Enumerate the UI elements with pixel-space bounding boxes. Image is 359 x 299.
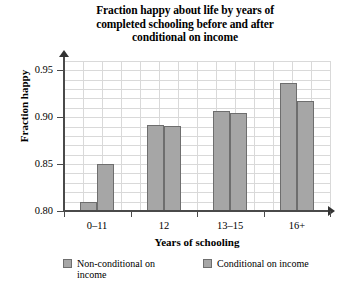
y-axis-arrow-icon — [59, 50, 69, 57]
bar — [297, 101, 314, 211]
legend-item-conditional: Conditional on income — [203, 258, 327, 280]
x-axis-tick — [64, 211, 65, 217]
x-axis-tick — [264, 211, 265, 217]
bar — [164, 126, 181, 211]
legend-label-conditional: Conditional on income — [217, 258, 327, 269]
x-axis-tick — [131, 211, 132, 217]
x-axis-tick — [197, 211, 198, 217]
legend-swatch-icon — [203, 259, 212, 268]
chart-title-line-3: conditional on income — [40, 31, 330, 45]
chart-legend: Non-conditional on income Conditional on… — [63, 258, 335, 280]
y-axis-tick — [57, 164, 64, 165]
gridline-vertical — [121, 61, 122, 211]
gridline-vertical — [140, 61, 141, 211]
gridline-vertical — [330, 61, 331, 211]
x-axis-tick-label: 13–15 — [195, 220, 265, 231]
bar — [213, 111, 230, 211]
y-axis-title: Fraction happy — [18, 36, 30, 176]
legend-swatch-icon — [63, 259, 72, 268]
bar — [230, 113, 247, 211]
gridline-vertical — [197, 61, 198, 211]
legend-label-line-2: income — [77, 269, 106, 280]
legend-item-non-conditional: Non-conditional on income — [63, 258, 203, 280]
gridline-vertical — [83, 61, 84, 211]
plot-area — [64, 61, 330, 211]
legend-label-non-conditional: Non-conditional on income — [77, 258, 187, 280]
y-axis-tick-label: 0.80 — [13, 206, 53, 217]
y-axis-tick — [57, 211, 64, 212]
bar — [147, 125, 164, 211]
chart-figure: Fraction happy about life by years of co… — [0, 0, 359, 299]
y-axis-line — [63, 55, 65, 212]
x-axis-tick-label: 0–11 — [62, 220, 132, 231]
x-axis-line — [63, 210, 329, 212]
gridline-vertical — [254, 61, 255, 211]
chart-title-line-1: Fraction happy about life by years of — [40, 4, 330, 18]
x-axis-tick-label: 12 — [129, 220, 199, 231]
x-axis-title: Years of schooling — [64, 236, 330, 248]
gridline-vertical — [273, 61, 274, 211]
y-axis-tick — [57, 117, 64, 118]
chart-title: Fraction happy about life by years of co… — [40, 4, 330, 45]
bar — [97, 164, 114, 211]
x-axis-tick — [330, 211, 331, 217]
chart-title-line-2: completed schooling before and after — [40, 18, 330, 32]
bar — [280, 83, 297, 211]
legend-label-line-1: Non-conditional on — [77, 258, 155, 269]
x-axis-tick-label: 16+ — [262, 220, 332, 231]
y-axis-tick — [57, 70, 64, 71]
